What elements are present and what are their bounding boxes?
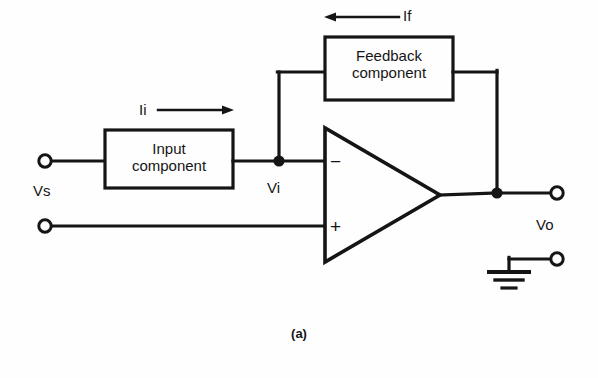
input-component-label: Input component: [106, 141, 232, 175]
inverting-input-sign: −: [330, 152, 341, 171]
source-positive-terminal-circle[interactable]: [39, 155, 51, 167]
input-voltage-label: Vi: [267, 180, 280, 195]
noninverting-input-sign: +: [330, 217, 341, 236]
inverting-node-dot: [273, 155, 284, 166]
operational-amplifier-triangle: [325, 128, 440, 262]
feedback-current-label: If: [403, 8, 411, 23]
output-voltage-label: Vo: [536, 217, 554, 232]
feedback-component-label: Feedback component: [326, 48, 452, 82]
input-current-label: Ii: [139, 102, 147, 117]
circuit-diagram-figure: Input component Feedback component Vs Vi…: [0, 0, 598, 378]
feedback-current-arrow-head: [324, 12, 336, 21]
circuit-schematic-svg: [0, 0, 598, 378]
input-current-arrow-head: [222, 105, 234, 114]
output-node-dot: [491, 187, 502, 198]
wire-opamp-output: [438, 193, 497, 195]
ground-terminal-circle[interactable]: [551, 253, 563, 265]
source-voltage-label: Vs: [33, 183, 51, 198]
output-terminal-circle[interactable]: [551, 187, 563, 199]
figure-caption: (a): [0, 327, 598, 340]
source-negative-terminal-circle[interactable]: [39, 220, 51, 232]
